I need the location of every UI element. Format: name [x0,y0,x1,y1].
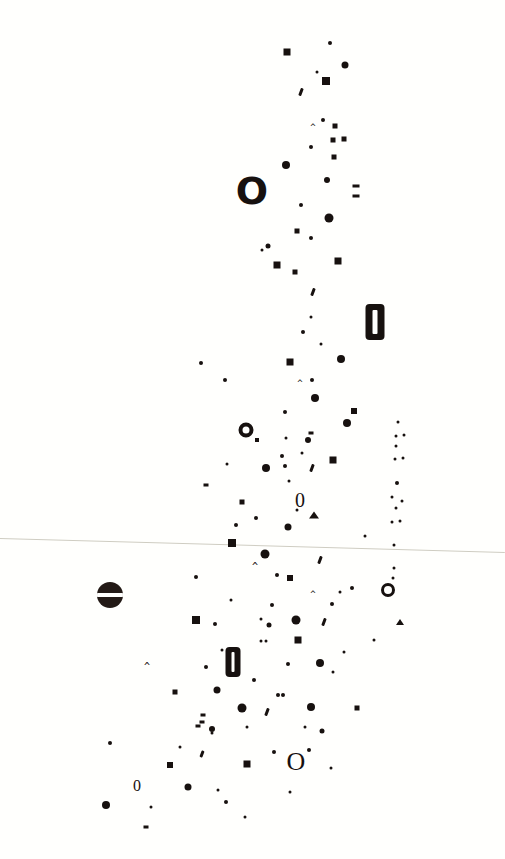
filled-circle-mark [266,244,271,249]
filled-circle-mark [214,687,221,694]
filled-circle-mark [320,343,323,346]
filled-square-mark [192,616,200,624]
filled-circle-mark [364,535,367,538]
filled-circle-mark [309,236,313,240]
caret-mark-mark: ^ [310,590,315,599]
filled-circle-mark [330,602,334,606]
filled-square-mark [355,706,360,711]
filled-square-mark [332,155,337,160]
short-dash-mark [353,185,360,188]
comma-tick-mark [199,750,204,758]
filled-circle-mark [342,62,349,69]
filled-square-mark [330,457,337,464]
comma-tick-mark [310,288,316,297]
filled-circle-mark [328,41,332,45]
caret-mark-mark: ^ [252,562,258,572]
filled-circle-mark [223,378,227,382]
filled-square-mark [335,258,342,265]
filled-circle-mark [305,437,311,443]
filled-circle-mark [321,118,325,122]
filled-circle-mark [179,746,182,749]
filled-circle-mark [292,616,301,625]
filled-circle-mark [316,659,324,667]
filled-circle-mark [281,693,285,697]
filled-square-mark [167,762,173,768]
typographic-character-mark: O [287,749,306,775]
filled-square-mark [295,637,302,644]
filled-circle-mark [194,575,198,579]
circle-with-white-bar-mark [97,582,123,608]
filled-circle-mark [391,496,394,499]
typographic-character-mark: 0 [133,778,141,794]
comma-tick-mark [264,708,270,717]
short-dash-mark [201,714,206,717]
filled-circle-mark [337,355,345,363]
filled-circle-mark [226,463,229,466]
short-dash-mark [309,432,314,435]
filled-circle-mark [320,729,325,734]
filled-circle-mark [394,458,397,461]
filled-circle-mark [311,394,319,402]
filled-circle-mark [343,419,351,427]
white-slit [231,652,235,672]
filled-circle-mark [270,603,274,607]
short-dash-mark [353,195,360,198]
filled-circle-mark [265,640,268,643]
filled-circle-mark [283,464,287,468]
comma-tick-mark [309,464,315,473]
filled-circle-mark [395,445,398,448]
filled-circle-mark [199,361,203,365]
filled-circle-mark [102,801,110,809]
filled-circle-mark [391,521,394,524]
filled-circle-mark [401,500,404,503]
filled-circle-mark [282,161,290,169]
filled-square-mark [287,359,294,366]
filled-circle-mark [310,316,313,319]
filled-circle-mark [403,434,406,437]
comma-tick-mark [321,618,327,627]
filled-circle-mark [150,806,153,809]
filled-square-mark [322,77,330,85]
filled-circle-mark [288,480,291,483]
bold-ring-glyph-mark [239,423,254,438]
filled-circle-mark [262,464,270,472]
filled-circle-mark [299,203,303,207]
filled-circle-mark [350,586,354,590]
filled-square-mark [244,761,251,768]
filled-circle-mark [238,704,247,713]
filled-circle-mark [285,437,288,440]
filled-circle-mark [254,516,258,520]
filled-circle-mark [244,816,247,819]
filled-circle-mark [392,577,395,580]
filled-square-mark [295,229,300,234]
filled-circle-mark [316,71,319,74]
filled-circle-mark [261,249,264,252]
filled-circle-mark [246,726,249,729]
filled-circle-mark [213,622,217,626]
filled-circle-mark [307,748,311,752]
filled-square-mark [293,270,298,275]
filled-circle-mark [286,662,290,666]
filled-square-mark [331,138,336,143]
filled-circle-mark [108,741,112,745]
filled-square-mark [333,124,338,129]
filled-circle-mark [304,726,307,729]
filled-circle-mark [224,800,228,804]
filled-circle-mark [395,435,398,438]
filled-circle-mark [230,599,233,602]
filled-circle-mark [301,330,305,334]
typographic-character-mark: O [236,172,268,210]
caret-mark-mark: ^ [310,123,315,132]
filled-circle-mark [260,618,263,621]
typographic-character-mark: 0 [295,490,305,510]
filled-circle-mark [252,678,256,682]
filled-square-mark [173,690,178,695]
filled-square-mark [274,262,281,269]
filled-circle-mark [397,421,400,424]
filled-circle-mark [325,214,334,223]
artwork-canvas: ^O^0^^^O0 [0,0,505,859]
filled-square-mark [240,500,245,505]
filled-circle-mark [393,544,396,547]
bold-zero-pill-mark [366,304,385,340]
white-slit [373,310,378,334]
